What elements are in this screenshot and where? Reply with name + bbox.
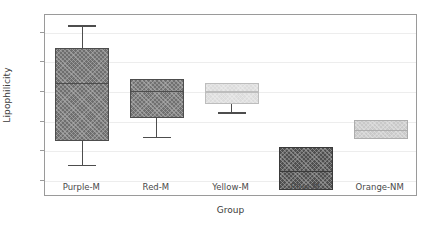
whisker-cap-lower [218, 112, 246, 113]
box-hatch [131, 80, 183, 117]
x-tick-label-orange-nm: Orange-NM [356, 182, 404, 192]
x-axis-title: Group [44, 205, 417, 215]
y-axis-title: Lipophilicity [2, 50, 12, 140]
whisker-lower [231, 104, 232, 113]
box-body [205, 83, 259, 104]
y-tick-mark [40, 121, 44, 122]
gridline [45, 33, 416, 34]
box-hatch [206, 84, 258, 103]
plot-area [44, 14, 417, 196]
whisker-cap-lower [143, 137, 171, 138]
y-tick-mark [40, 61, 44, 62]
box-hatch [56, 49, 108, 140]
median-line [279, 171, 333, 172]
median-line [354, 130, 408, 131]
whisker-cap-upper [68, 25, 96, 26]
y-tick-mark [40, 180, 44, 181]
x-tick-label-yellow-m: Yellow-M [212, 182, 249, 192]
whisker-lower [156, 118, 157, 137]
median-line [55, 83, 109, 84]
y-tick-mark [40, 32, 44, 33]
x-tick-label-purple-m: Purple-M [63, 182, 100, 192]
x-tick-label-red-m: Red-M [143, 182, 170, 192]
x-tick-label-blue-m: Blue-M [290, 182, 319, 192]
y-tick-mark [40, 150, 44, 151]
whisker-lower [82, 141, 83, 165]
box-body [130, 79, 184, 118]
median-line [130, 91, 184, 92]
whisker-cap-lower [68, 165, 96, 166]
whisker-upper [82, 25, 83, 47]
y-tick-mark [40, 91, 44, 92]
box-body [55, 48, 109, 141]
median-line [205, 91, 259, 92]
boxplot-figure: Lipophilicity −101234 Purple-MRed-MYello… [0, 0, 429, 227]
gridline [45, 151, 416, 152]
